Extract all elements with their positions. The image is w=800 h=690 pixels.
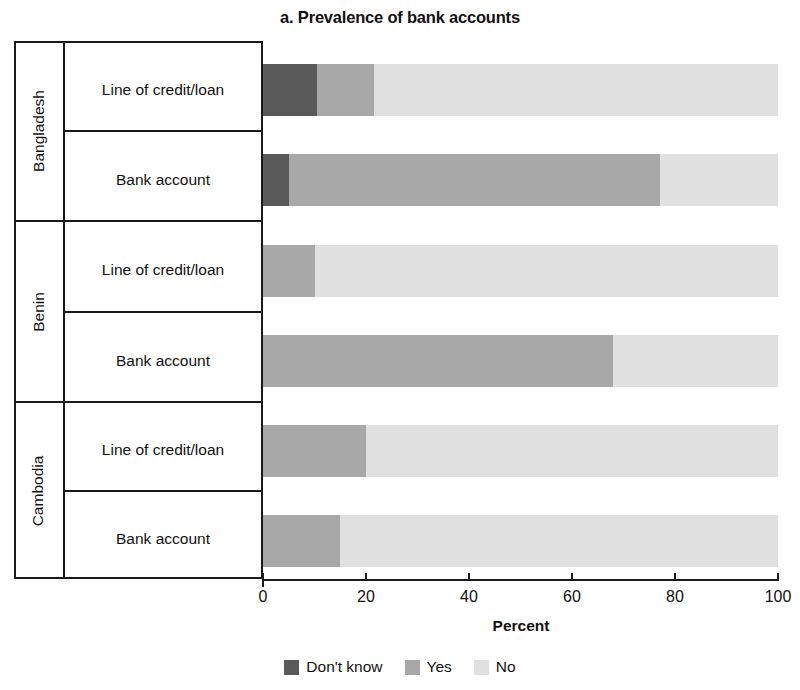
x-axis-tick-label: 0 xyxy=(233,588,293,606)
legend-item[interactable]: Yes xyxy=(405,658,452,676)
axis-vertical-line xyxy=(261,41,263,579)
bar-segment-yes xyxy=(263,425,366,477)
bar-segment-no xyxy=(613,335,778,387)
legend-label: No xyxy=(496,658,516,676)
x-axis-title: Percent xyxy=(263,617,779,635)
x-axis-line xyxy=(263,579,779,581)
legend-swatch-icon xyxy=(284,660,299,675)
row-label-cambodia-bank-account: Bank account xyxy=(65,519,261,559)
x-axis-tick xyxy=(571,573,573,581)
legend-swatch-icon xyxy=(405,660,420,675)
row-label-bangladesh-line-of-credit: Line of credit/loan xyxy=(65,70,261,110)
row-label-benin-bank-account: Bank account xyxy=(65,341,261,381)
bar-segment-no xyxy=(374,64,778,116)
bar-benin-line-of-credit xyxy=(263,245,778,297)
row-label-benin-line-of-credit: Line of credit/loan xyxy=(65,250,261,290)
x-axis-tick-label: 100 xyxy=(748,588,800,606)
bar-segment-no xyxy=(315,245,779,297)
bar-segment-no xyxy=(340,515,778,567)
bar-segment-don-t-know xyxy=(263,154,289,206)
row-separator xyxy=(63,311,263,313)
bar-segment-no xyxy=(366,425,778,477)
bar-bangladesh-line-of-credit xyxy=(263,64,778,116)
country-label-text: Benin xyxy=(30,292,48,332)
chart-legend: Don't knowYesNo xyxy=(0,658,800,676)
bar-segment-yes xyxy=(289,154,660,206)
chart-title: a. Prevalence of bank accounts xyxy=(0,8,800,27)
country-label-text: Cambodia xyxy=(30,456,48,527)
bar-segment-yes xyxy=(263,515,340,567)
x-axis-tick xyxy=(365,573,367,581)
legend-item[interactable]: Don't know xyxy=(284,658,382,676)
country-label-text: Bangladesh xyxy=(30,90,48,172)
x-axis-tick xyxy=(674,573,676,581)
x-axis-tick-label: 60 xyxy=(542,588,602,606)
legend-label: Yes xyxy=(427,658,452,676)
x-axis-tick xyxy=(468,573,470,581)
row-label-cambodia-line-of-credit: Line of credit/loan xyxy=(65,430,261,470)
bar-segment-don-t-know xyxy=(263,64,317,116)
bar-segment-yes xyxy=(317,64,374,116)
bar-cambodia-bank-account xyxy=(263,515,778,567)
x-axis-tick xyxy=(777,573,779,581)
bar-segment-yes xyxy=(263,245,315,297)
bar-benin-bank-account xyxy=(263,335,778,387)
x-axis-tick-label: 40 xyxy=(439,588,499,606)
country-label-bangladesh: Bangladesh xyxy=(14,41,63,221)
bar-bangladesh-bank-account xyxy=(263,154,778,206)
country-label-cambodia: Cambodia xyxy=(14,403,63,579)
x-axis-tick xyxy=(262,573,264,587)
bar-segment-yes xyxy=(263,335,613,387)
legend-swatch-icon xyxy=(474,660,489,675)
x-axis-tick-label: 80 xyxy=(645,588,705,606)
x-axis-tick-label: 20 xyxy=(336,588,396,606)
row-separator xyxy=(63,130,263,132)
bar-cambodia-line-of-credit xyxy=(263,425,778,477)
legend-label: Don't know xyxy=(306,658,382,676)
legend-item[interactable]: No xyxy=(474,658,516,676)
row-label-bangladesh-bank-account: Bank account xyxy=(65,160,261,200)
stacked-bar-chart: a. Prevalence of bank accounts Banglades… xyxy=(0,0,800,690)
country-label-benin: Benin xyxy=(14,222,63,401)
row-separator xyxy=(63,490,263,492)
bar-segment-no xyxy=(660,154,778,206)
